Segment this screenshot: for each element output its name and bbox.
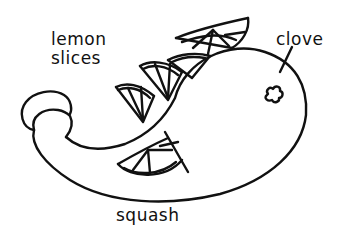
lemon-slice-belly: [118, 132, 188, 175]
lemon-label-line2: slices: [51, 49, 106, 68]
clove-label: clove: [276, 30, 324, 49]
lemon-slice-1: [116, 84, 154, 122]
lemon-slice-3: [168, 54, 210, 78]
clove-icon: [266, 87, 283, 103]
squash-stem-inner: [33, 110, 71, 137]
lemon-label-line1: lemon: [51, 30, 106, 49]
squash-label: squash: [116, 206, 179, 225]
lemon-slices-label: lemon slices: [51, 30, 106, 68]
diagram-canvas: lemon slices clove squash: [0, 0, 346, 248]
